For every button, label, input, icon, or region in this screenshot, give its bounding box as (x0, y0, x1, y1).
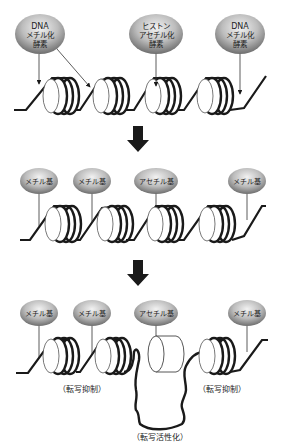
enzyme-label: 酵素 (149, 39, 164, 49)
mark-label: メチル基 (233, 177, 261, 186)
stage3-chromatin: メチル基 メチル基 アセチル基 メチル基 （転写抑制） （転写抑制） （転写活性… (16, 300, 268, 442)
mark-label: メチル基 (25, 309, 53, 318)
nucleosome (43, 78, 79, 114)
epigenetics-diagram: DNA メチル化 酵素 ヒストン アセチル化 酵素 DNA メチル化 酵素 (0, 0, 282, 448)
caption-repression-right: （転写抑制） (198, 384, 246, 394)
enzyme-label: DNA (231, 22, 249, 31)
acetyl-group-mark: アセチル基 (134, 300, 178, 336)
enzyme-label: アセチル化 (139, 30, 175, 40)
enzyme-label: メチル化 (226, 30, 255, 40)
nucleosome (145, 78, 181, 114)
down-arrow-icon (127, 260, 149, 286)
acetyl-group-mark: アセチル基 (134, 168, 178, 206)
stage1-chromatin: DNA メチル化 酵素 ヒストン アセチル化 酵素 DNA メチル化 酵素 (14, 14, 266, 114)
enzyme-histone-acetylation: ヒストン アセチル化 酵素 (129, 14, 183, 86)
enzyme-label: ヒストン (142, 22, 170, 31)
nucleosome (199, 338, 235, 374)
mark-label: メチル基 (25, 177, 53, 186)
nucleosome (147, 206, 183, 242)
nucleosome (93, 78, 129, 114)
nucleosome (43, 338, 79, 374)
enzyme-label: DNA (31, 22, 49, 31)
open-histone (148, 336, 184, 372)
nucleosome (95, 338, 131, 374)
mark-label: メチル基 (78, 177, 106, 186)
caption-activation: （転写活性化） (132, 432, 188, 442)
nucleosome (45, 206, 81, 242)
nucleosome (197, 78, 233, 114)
stage2-chromatin: メチル基 メチル基 アセチル基 メチル基 (20, 168, 266, 242)
mark-label: メチル基 (233, 309, 261, 318)
down-arrow-icon (127, 126, 149, 152)
mark-label: アセチル基 (139, 309, 174, 318)
enzyme-label: 酵素 (233, 39, 248, 49)
mark-label: メチル基 (78, 309, 106, 318)
enzyme-label: メチル化 (26, 30, 55, 40)
mark-label: アセチル基 (139, 177, 174, 186)
enzyme-dna-methylation-1: DNA メチル化 酵素 (15, 14, 90, 87)
caption-repression-left: （転写抑制） (58, 384, 106, 394)
nucleosome (199, 206, 235, 242)
nucleosome (97, 206, 133, 242)
enzyme-label: 酵素 (33, 39, 48, 49)
